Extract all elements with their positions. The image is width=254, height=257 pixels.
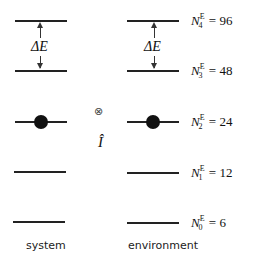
label-subscript: 2 (199, 122, 203, 131)
label-superscript: E (200, 214, 205, 223)
system-delta-label: ΔE (31, 38, 48, 56)
label-value: 6 (219, 215, 226, 230)
system-caption: system (26, 239, 66, 252)
env-occupied-dot (146, 115, 160, 129)
label-superscript: E (200, 12, 205, 21)
label-superscript: E (200, 164, 205, 173)
env-level-1 (127, 172, 179, 174)
system-arrowhead-down-icon (37, 63, 43, 69)
label-subscript: 0 (199, 223, 203, 232)
env-delta-label: ΔE (144, 38, 161, 56)
label-subscript: 3 (199, 71, 203, 80)
identity-operator: Î (98, 134, 103, 151)
label-subscript: 4 (199, 21, 203, 30)
env-label-4: NE4 = 96 (191, 13, 232, 29)
label-superscript: E (200, 62, 205, 71)
label-value: 24 (219, 114, 232, 129)
system-occupied-dot (34, 115, 48, 129)
label-value: 12 (219, 165, 232, 180)
env-arrowhead-down-icon (151, 63, 157, 69)
system-level-1 (14, 171, 66, 173)
env-label-2: NE2 = 24 (191, 114, 232, 130)
env-label-0: NE0 = 6 (191, 215, 226, 231)
environment-caption: environment (128, 239, 198, 252)
env-label-1: NE1 = 12 (191, 165, 232, 181)
tensor-product-icon: ⊗ (94, 105, 103, 118)
env-level-3 (127, 70, 179, 72)
label-subscript: 1 (199, 173, 203, 182)
label-superscript: E (200, 113, 205, 122)
env-arrowhead-up-icon (151, 22, 157, 28)
system-level-3 (15, 70, 67, 72)
env-label-3: NE3 = 48 (191, 63, 232, 79)
label-value: 96 (219, 13, 232, 28)
label-value: 48 (219, 63, 232, 78)
system-arrowhead-up-icon (37, 22, 43, 28)
system-level-0 (13, 221, 65, 223)
env-level-0 (127, 222, 179, 224)
